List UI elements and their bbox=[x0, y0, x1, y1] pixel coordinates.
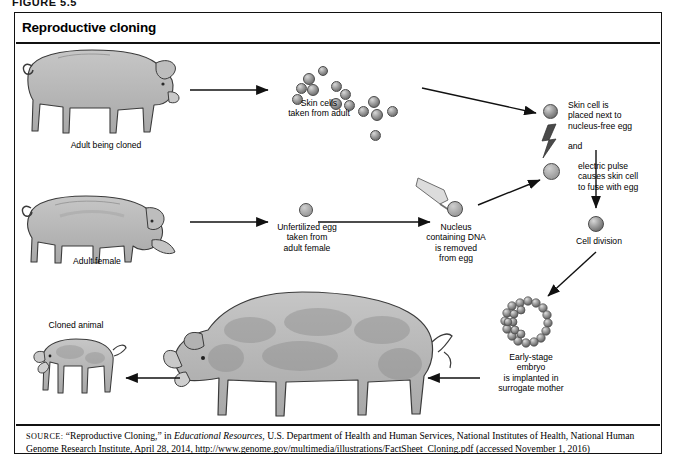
source-lead: “Reproductive Cloning,” in bbox=[63, 430, 174, 441]
label-unfertilized-egg: Unfertilized egg taken from adult female bbox=[262, 222, 352, 253]
label-cloned-animal: Cloned animal bbox=[30, 320, 122, 330]
skin-cell bbox=[296, 83, 307, 94]
label-early-embryo: Early-stage embryo is implanted in surro… bbox=[476, 352, 586, 394]
label-skin-cell-placed: Skin cell is placed next to nucleus-free… bbox=[568, 100, 662, 131]
source-citation: SOURCE: “Reproductive Cloning,” in Educa… bbox=[26, 430, 654, 455]
skin-cell bbox=[371, 109, 383, 121]
skin-cell bbox=[370, 130, 381, 141]
source-italic-title: Educational Resources bbox=[174, 430, 262, 441]
label-skin-cells: Skin cells taken from adult bbox=[272, 98, 366, 119]
dividing-cell bbox=[588, 216, 604, 232]
label-adult-being-cloned: Adult being cloned bbox=[46, 140, 166, 150]
skin-cell bbox=[387, 106, 398, 117]
title-divider bbox=[16, 42, 660, 44]
panel-title: Reproductive cloning bbox=[22, 20, 156, 35]
source-divider bbox=[16, 424, 660, 426]
label-nucleus-removed: Nucleus containing DNA is removed from e… bbox=[414, 222, 498, 264]
enucleated-egg-cell bbox=[447, 201, 463, 217]
unfertilized-egg-cell bbox=[299, 203, 313, 217]
skin-cell bbox=[368, 96, 380, 108]
skin-cell bbox=[307, 84, 319, 96]
figure-number-label: FIGURE 5.5 bbox=[12, 0, 77, 8]
nucleus-free-egg bbox=[543, 163, 560, 180]
label-adult-female: Adult female bbox=[42, 256, 152, 266]
label-and: and bbox=[568, 141, 608, 151]
label-electric-pulse: electric pulse causes skin cell to fuse … bbox=[578, 161, 674, 192]
source-prefix: SOURCE: bbox=[26, 432, 63, 441]
skin-cell-single bbox=[543, 104, 558, 119]
skin-cell bbox=[318, 66, 328, 76]
label-cell-division: Cell division bbox=[556, 236, 642, 246]
